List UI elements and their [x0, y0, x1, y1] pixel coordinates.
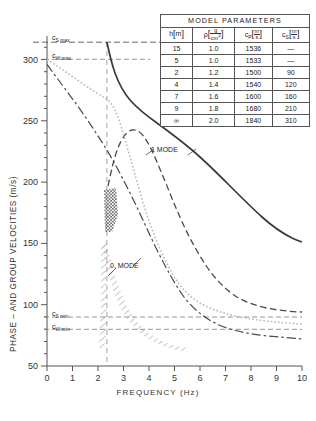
svg-text:50: 50	[28, 361, 38, 371]
cell-rho: 1.6	[193, 90, 235, 102]
x-axis-title: FREQUENCY (Hz)	[0, 388, 316, 397]
table-row: 4 1.4 1540 120	[161, 78, 310, 90]
svg-text:250: 250	[23, 116, 38, 126]
x-tick-marks	[47, 366, 302, 371]
cell-rho: 1.2	[193, 66, 235, 78]
y-tick-marks	[41, 47, 47, 366]
cell-rho: 1.4	[193, 78, 235, 90]
curve-mode1-group	[108, 130, 302, 312]
table-row: 15 1.0 1536 —	[161, 42, 310, 54]
cell-rho: 1.8	[193, 102, 235, 114]
cell-cp: 1500	[235, 66, 272, 78]
table-row: ∞ 2.0 1840 310	[161, 114, 310, 126]
svg-text:10: 10	[297, 373, 307, 383]
cell-rho: 2.0	[193, 114, 235, 126]
hatched-band-checker	[104, 188, 118, 232]
cell-h: 15	[161, 42, 193, 54]
cell-h: 2	[161, 66, 193, 78]
model-parameters-table: MODEL PARAMETERS h[m] ρ[gcm3] cP[ms] cS[…	[160, 14, 310, 127]
svg-text:4: 4	[146, 373, 151, 383]
x-tick-labels: 0 1 2 3 4 5 6 7 8 9 10	[44, 373, 307, 383]
col-h: h[m]	[161, 28, 193, 43]
svg-text:1: 1	[70, 373, 75, 383]
table-header-row: h[m] ρ[gcm3] cP[ms] cS[ms]	[161, 28, 310, 43]
mode0-label: 0. MODE	[110, 262, 139, 269]
cs-max-label: cS max	[52, 34, 70, 43]
svg-text:300: 300	[23, 55, 38, 65]
cell-cp: 1680	[235, 102, 272, 114]
svg-text:9: 9	[274, 373, 279, 383]
dispersion-curve-figure: PHASE – AND GROUP VELOCITIES (m/s)	[0, 0, 316, 421]
svg-text:5: 5	[172, 373, 177, 383]
hatched-band-lower	[103, 243, 188, 352]
cell-h: 9	[161, 102, 193, 114]
table-row: 2 1.2 1500 90	[161, 66, 310, 78]
svg-text:2: 2	[95, 373, 100, 383]
svg-text:150: 150	[23, 238, 38, 248]
svg-text:6: 6	[197, 373, 202, 383]
cell-cs: —	[272, 54, 309, 66]
table-row: 5 1.0 1533 —	[161, 54, 310, 66]
cell-cp: 1600	[235, 90, 272, 102]
cell-cp: 1533	[235, 54, 272, 66]
cell-cs: 160	[272, 90, 309, 102]
mode1-label: 1 MODE	[151, 146, 178, 153]
y-axis-title: PHASE – AND GROUP VELOCITIES (m/s)	[9, 176, 18, 352]
cell-cs: 210	[272, 102, 309, 114]
cell-cp: 1540	[235, 78, 272, 90]
svg-text:100: 100	[23, 300, 38, 310]
svg-text:0: 0	[44, 373, 49, 383]
cell-h: 4	[161, 78, 193, 90]
cell-h: 7	[161, 90, 193, 102]
annotation-leaders	[108, 149, 196, 276]
cell-h: 5	[161, 54, 193, 66]
cell-rho: 1.0	[193, 54, 235, 66]
y-axis-title-wrap: PHASE – AND GROUP VELOCITIES (m/s)	[0, 0, 14, 360]
svg-text:200: 200	[23, 177, 38, 187]
col-cs: cS[ms]	[272, 28, 309, 43]
cs-min-label: cS min	[52, 310, 68, 319]
cell-cp: 1536	[235, 42, 272, 54]
cell-cs: —	[272, 42, 309, 54]
cw-max-label: cW max	[52, 52, 71, 61]
cell-rho: 1.0	[193, 42, 235, 54]
cw-min-label: cW min	[52, 323, 70, 332]
svg-text:8: 8	[248, 373, 253, 383]
cell-cs: 120	[272, 78, 309, 90]
table-row: 7 1.6 1600 160	[161, 90, 310, 102]
svg-text:3: 3	[121, 373, 126, 383]
cell-h: ∞	[161, 114, 193, 126]
col-rho: ρ[gcm3]	[193, 28, 235, 43]
table-title: MODEL PARAMETERS	[161, 15, 310, 28]
table-title-row: MODEL PARAMETERS	[161, 15, 310, 28]
y-tick-labels: 50 100 150 200 250 300	[23, 55, 38, 372]
col-cp: cP[ms]	[235, 28, 272, 43]
svg-text:7: 7	[223, 373, 228, 383]
cell-cp: 1840	[235, 114, 272, 126]
cell-cs: 90	[272, 66, 309, 78]
cell-cs: 310	[272, 114, 309, 126]
table-row: 9 1.8 1680 210	[161, 102, 310, 114]
